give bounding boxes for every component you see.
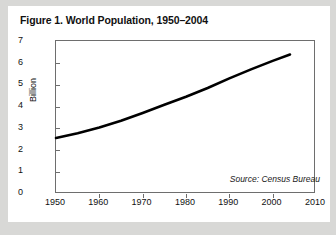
x-tick-label: 1980 xyxy=(170,197,200,207)
figure-panel: Figure 1. World Population, 1950–2004 Bi… xyxy=(8,6,330,222)
x-tick-label: 1990 xyxy=(213,197,243,207)
population-line-chart xyxy=(56,41,316,194)
y-tick-label: 6 xyxy=(5,57,23,67)
x-axis-tick xyxy=(229,194,230,198)
y-axis-title: Billion xyxy=(28,78,38,102)
x-tick-label: 1960 xyxy=(83,197,113,207)
y-tick-label: 0 xyxy=(5,187,23,197)
y-tick-label: 1 xyxy=(5,165,23,175)
y-tick-label: 5 xyxy=(5,78,23,88)
y-tick-label: 2 xyxy=(5,144,23,154)
x-axis-tick xyxy=(143,194,144,198)
x-tick-label: 2000 xyxy=(257,197,287,207)
y-tick-label: 4 xyxy=(5,100,23,110)
x-axis-tick xyxy=(186,194,187,198)
x-tick-label: 1950 xyxy=(40,197,70,207)
x-axis-tick xyxy=(273,194,274,198)
y-tick-label: 7 xyxy=(5,35,23,45)
source-note: Source: Census Bureau xyxy=(230,174,320,184)
x-tick-label: 1970 xyxy=(127,197,157,207)
figure-title: Figure 1. World Population, 1950–2004 xyxy=(20,14,208,26)
series-line-world-population xyxy=(56,55,290,139)
x-axis-tick xyxy=(99,194,100,198)
plot-area xyxy=(55,40,315,193)
x-tick-label: 2010 xyxy=(300,197,330,207)
y-tick-label: 3 xyxy=(5,122,23,132)
